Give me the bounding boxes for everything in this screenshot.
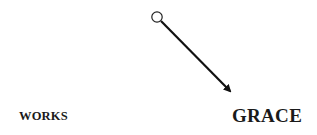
arrow-line <box>161 21 230 91</box>
grace-label: GRACE <box>232 106 302 125</box>
works-label: WORKS <box>19 110 68 123</box>
diagram-canvas: WORKS GRACE <box>0 0 317 135</box>
open-circle-icon <box>152 12 162 22</box>
